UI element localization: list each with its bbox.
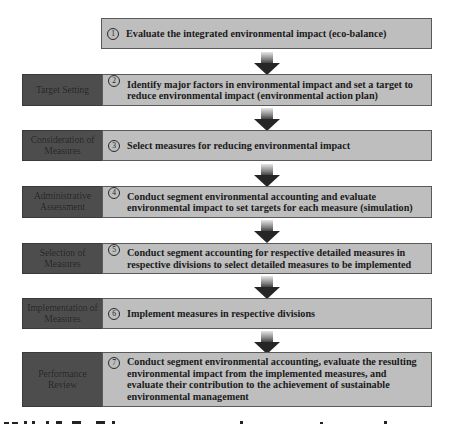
step-number-badge: 5 bbox=[108, 244, 120, 256]
step-1-text: Evaluate the integrated environmental im… bbox=[126, 28, 425, 40]
step-5: Selection of Measures 5 Conduct segment … bbox=[22, 243, 432, 274]
step-4-phase-label: Administrative Assessment bbox=[22, 186, 102, 218]
step-2-text: Identify major factors in environmental … bbox=[127, 79, 425, 102]
step-3-text: Select measures for reducing environment… bbox=[127, 140, 425, 152]
step-number-badge: 2 bbox=[108, 75, 120, 87]
caption-glyph-tops bbox=[0, 415, 451, 424]
step-number-badge: 3 bbox=[108, 140, 120, 152]
step-4-box: 4 Conduct segment environmental accounti… bbox=[102, 186, 432, 218]
down-arrow-icon bbox=[254, 220, 280, 243]
step-7-box: 7 Conduct segment environmental accounti… bbox=[102, 352, 432, 407]
step-7: Performance Review 7 Conduct segment env… bbox=[22, 352, 432, 407]
step-number-badge: 4 bbox=[108, 187, 120, 199]
step-4-text: Conduct segment environmental accounting… bbox=[127, 191, 425, 214]
down-arrow-icon bbox=[254, 331, 280, 354]
step-7-phase-label: Performance Review bbox=[22, 352, 102, 407]
step-6-box: 6 Implement measures in respective divis… bbox=[102, 298, 432, 329]
step-4: Administrative Assessment 4 Conduct segm… bbox=[22, 186, 432, 218]
step-2-box: 2 Identify major factors in environmenta… bbox=[102, 74, 432, 106]
step-3-phase-label: Consideration of Measures bbox=[22, 130, 102, 161]
step-5-text: Conduct segment accounting for respectiv… bbox=[127, 247, 425, 270]
step-number-badge: 1 bbox=[107, 28, 119, 40]
step-5-box: 5 Conduct segment accounting for respect… bbox=[102, 243, 432, 274]
figure-caption-clipped bbox=[0, 410, 451, 424]
step-7-text: Conduct segment environmental accounting… bbox=[127, 356, 425, 402]
step-1: 1 Evaluate the integrated environmental … bbox=[101, 18, 432, 49]
down-arrow-icon bbox=[254, 276, 280, 299]
step-3-box: 3 Select measures for reducing environme… bbox=[102, 130, 432, 161]
step-6-phase-label: Implementation of Measures bbox=[22, 298, 102, 329]
step-1-box: 1 Evaluate the integrated environmental … bbox=[101, 18, 432, 49]
down-arrow-icon bbox=[254, 164, 280, 187]
step-number-badge: 6 bbox=[108, 308, 120, 320]
step-2-phase-label: Target Setting bbox=[22, 74, 102, 106]
down-arrow-icon bbox=[254, 108, 280, 131]
step-number-badge: 7 bbox=[108, 357, 120, 369]
step-5-phase-label: Selection of Measures bbox=[22, 243, 102, 274]
down-arrow-icon bbox=[254, 52, 280, 75]
step-2: Target Setting 2 Identify major factors … bbox=[22, 74, 432, 106]
step-3: Consideration of Measures 3 Select measu… bbox=[22, 130, 432, 161]
step-6: Implementation of Measures 6 Implement m… bbox=[22, 298, 432, 329]
step-6-text: Implement measures in respective divisio… bbox=[127, 308, 425, 320]
